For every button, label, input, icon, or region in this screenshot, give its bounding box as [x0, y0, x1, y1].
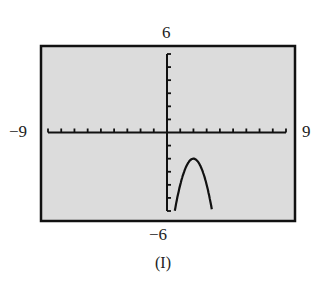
figure-caption: (I) — [155, 255, 171, 271]
xmax-label: 9 — [302, 123, 311, 140]
ymax-label: 6 — [162, 24, 171, 41]
ymin-label: −6 — [149, 226, 167, 243]
graph-window — [0, 0, 326, 294]
xmin-label: −9 — [9, 123, 27, 140]
